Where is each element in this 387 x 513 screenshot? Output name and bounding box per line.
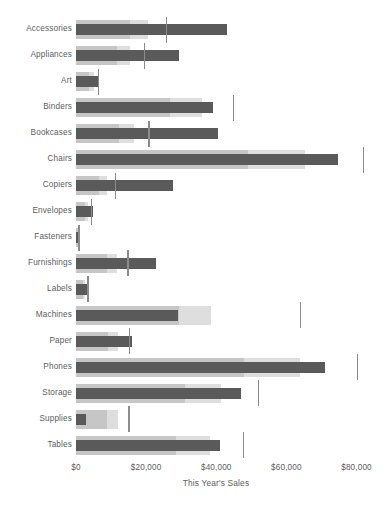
bullet-row — [76, 46, 380, 65]
plot-area — [76, 17, 380, 458]
axis-tick-label: $0 — [71, 463, 80, 472]
bullet-chart: AccessoriesAppliancesArtBindersBookcases… — [0, 0, 387, 513]
reference-tick — [129, 328, 130, 354]
reference-tick — [91, 199, 92, 225]
reference-tick — [300, 302, 301, 328]
reference-tick — [258, 380, 259, 406]
bullet-row — [76, 280, 380, 299]
reference-tick — [87, 276, 88, 302]
measure-bar — [76, 310, 178, 321]
axis-tick-label: $20,000 — [131, 463, 162, 472]
category-label: Bookcases — [31, 128, 72, 137]
bullet-row — [76, 306, 380, 325]
category-label: Supplies — [39, 414, 72, 423]
category-label: Paper — [49, 336, 72, 345]
category-label: Storage — [42, 388, 72, 397]
axis-tick-label: $40,000 — [201, 463, 232, 472]
measure-bar — [76, 50, 179, 61]
bullet-row — [76, 228, 380, 247]
category-label: Copiers — [43, 180, 72, 189]
category-label: Art — [61, 76, 72, 85]
reference-tick — [127, 250, 128, 276]
category-label: Tables — [47, 440, 72, 449]
measure-bar — [76, 414, 86, 425]
category-label: Appliances — [30, 50, 72, 59]
measure-bar — [76, 24, 227, 35]
bullet-row — [76, 410, 380, 429]
measure-bar — [76, 440, 220, 451]
category-label: Fasteners — [34, 232, 72, 241]
bullet-row — [76, 202, 380, 221]
measure-bar — [76, 388, 241, 399]
bullet-row — [76, 124, 380, 143]
measure-bar — [76, 180, 173, 191]
reference-tick — [233, 95, 234, 121]
measure-bar — [76, 232, 78, 243]
reference-tick — [128, 406, 129, 432]
category-label: Furnishings — [28, 258, 72, 267]
category-label: Machines — [36, 310, 72, 319]
measure-bar — [76, 336, 132, 347]
axis-tick-label: $60,000 — [271, 463, 302, 472]
reference-tick — [98, 69, 99, 95]
bullet-row — [76, 332, 380, 351]
bullet-row — [76, 358, 380, 377]
measure-bar — [76, 102, 213, 113]
reference-tick — [148, 121, 149, 147]
category-label: Labels — [47, 284, 72, 293]
measure-bar — [76, 128, 218, 139]
category-label: Accessories — [26, 24, 72, 33]
bullet-row — [76, 150, 380, 169]
bullet-row — [76, 72, 380, 91]
reference-tick — [115, 173, 116, 199]
measure-bar — [76, 76, 99, 87]
reference-tick — [243, 432, 244, 458]
measure-bar — [76, 258, 156, 269]
reference-tick — [363, 147, 364, 173]
bullet-row — [76, 176, 380, 195]
bullet-row — [76, 254, 380, 273]
axis-tick-label: $80,000 — [341, 463, 372, 472]
bullet-row — [76, 436, 380, 455]
category-label: Envelopes — [32, 206, 72, 215]
measure-bar — [76, 284, 88, 295]
axis-title: This Year's Sales — [183, 478, 250, 488]
measure-bar — [76, 362, 325, 373]
bar-rows — [76, 17, 380, 458]
reference-tick — [166, 17, 167, 43]
category-label: Binders — [43, 102, 72, 111]
measure-bar — [76, 154, 338, 165]
bullet-row — [76, 384, 380, 403]
bullet-row — [76, 98, 380, 117]
bullet-row — [76, 20, 380, 39]
reference-tick — [78, 225, 79, 251]
reference-tick — [357, 354, 358, 380]
category-label: Chairs — [47, 154, 72, 163]
category-axis: AccessoriesAppliancesArtBindersBookcases… — [0, 17, 72, 458]
value-axis: This Year's Sales $0$20,000$40,000$60,00… — [76, 458, 380, 488]
category-label: Phones — [43, 362, 72, 371]
reference-tick — [144, 43, 145, 69]
